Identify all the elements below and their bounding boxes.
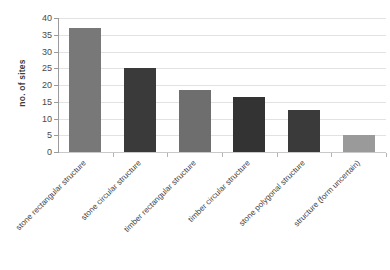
- y-axis-tick-mark: [54, 152, 58, 153]
- y-axis-tick-mark: [54, 135, 58, 136]
- y-axis-tick-label: 20: [32, 81, 52, 90]
- y-axis-tick-label: 15: [32, 97, 52, 106]
- gridline: [58, 35, 386, 36]
- bar: [124, 68, 156, 152]
- y-axis-tick-mark: [54, 52, 58, 53]
- y-axis-tick-label: 0: [32, 148, 52, 157]
- y-axis-tick-label: 30: [32, 47, 52, 56]
- y-axis-tick-label: 25: [32, 64, 52, 73]
- y-axis-tick-label: 10: [32, 114, 52, 123]
- y-axis-tick-label: 5: [32, 131, 52, 140]
- y-axis-tick-mark: [54, 85, 58, 86]
- x-axis-tick-mark: [113, 153, 114, 157]
- gridline: [58, 119, 386, 120]
- y-axis-tick-mark: [54, 102, 58, 103]
- gridline: [58, 85, 386, 86]
- bar: [179, 90, 211, 152]
- y-axis-tick-mark: [54, 18, 58, 19]
- x-axis-tick-mark: [386, 153, 387, 157]
- gridline: [58, 135, 386, 136]
- x-axis-tick-mark: [277, 153, 278, 157]
- bar: [69, 28, 101, 152]
- y-axis-tick-mark: [54, 119, 58, 120]
- x-axis-tick-mark: [222, 153, 223, 157]
- y-axis-title: no. of sites: [17, 53, 27, 113]
- bar-chart: no. of sites 0510152025303540 stone rect…: [0, 0, 390, 270]
- bar: [288, 110, 320, 152]
- y-axis-tick-mark: [54, 68, 58, 69]
- bar: [233, 97, 265, 152]
- gridline: [58, 102, 386, 103]
- gridline: [58, 18, 386, 19]
- bar: [343, 135, 375, 152]
- x-axis-tick-mark: [331, 153, 332, 157]
- y-axis-tick-label: 40: [32, 14, 52, 23]
- gridline: [58, 68, 386, 69]
- x-axis-tick-mark: [167, 153, 168, 157]
- y-axis-tick-mark: [54, 35, 58, 36]
- y-axis-tick-label: 35: [32, 30, 52, 39]
- y-axis-line: [58, 18, 59, 153]
- gridline: [58, 52, 386, 53]
